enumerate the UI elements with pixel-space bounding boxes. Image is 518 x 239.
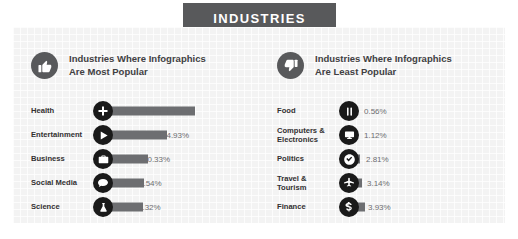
row-value: 2.81% — [366, 155, 389, 164]
bar-zone: 1.12% — [339, 125, 499, 145]
row-label: Social Media — [31, 178, 93, 187]
columns-container: Industries Where Infographics Are Most P… — [13, 27, 505, 223]
column-header-most-popular: Industries Where Infographics Are Most P… — [31, 52, 206, 79]
row-value: 9.32% — [138, 203, 161, 212]
dollar-icon — [339, 197, 359, 217]
content-panel: Industries Where Infographics Are Most P… — [13, 27, 505, 223]
thumbs-up-icon — [31, 52, 58, 79]
speech-bubble-icon — [93, 173, 113, 193]
column-heading-text: Industries Where Infographics Are Most P… — [69, 53, 206, 78]
briefcase-icon — [93, 149, 113, 169]
row-label: Food — [277, 106, 339, 115]
bar-zone: 9.54% — [93, 173, 253, 193]
bar-zone: 22% — [93, 101, 253, 121]
rows-most-popular: Health 22% Entertainment — [31, 99, 253, 219]
table-row: Social Media 9.54% — [31, 171, 253, 195]
bar-zone: 0.56% — [339, 101, 499, 121]
monitor-icon — [339, 125, 359, 145]
table-row: Business 10.33% — [31, 147, 253, 171]
bar-zone: 10.33% — [93, 149, 253, 169]
row-label: Politics — [277, 154, 339, 163]
check-circle-icon — [339, 149, 359, 169]
row-label: Health — [31, 106, 93, 115]
row-label: Computers & Electronics — [277, 126, 339, 145]
row-value: 3.93% — [368, 203, 391, 212]
column-most-popular: Industries Where Infographics Are Most P… — [13, 27, 259, 223]
rows-least-popular: Food 0.56% — [277, 99, 499, 219]
row-value: 14.93% — [162, 131, 189, 140]
table-row: Entertainment 14.93% — [31, 123, 253, 147]
flask-icon — [93, 197, 113, 217]
value-bar — [102, 107, 195, 116]
row-value: 22% — [125, 107, 141, 116]
table-row: Science 9.32% — [31, 195, 253, 219]
play-icon — [93, 125, 113, 145]
row-value: 9.54% — [139, 179, 162, 188]
table-row: Food 0.56% — [277, 99, 499, 123]
bar-zone: 14.93% — [93, 125, 253, 145]
plus-icon — [93, 101, 113, 121]
row-label: Entertainment — [31, 130, 93, 139]
column-least-popular: Industries Where Infographics Are Least … — [259, 27, 505, 223]
airplane-icon — [339, 173, 359, 193]
page-title: INDUSTRIES — [213, 11, 306, 26]
table-row: Computers & Electronics 1.12% — [277, 123, 499, 147]
column-heading-text: Industries Where Infographics Are Least … — [315, 53, 452, 78]
column-header-least-popular: Industries Where Infographics Are Least … — [277, 52, 452, 79]
row-label: Business — [31, 154, 93, 163]
infographic-root: INDUSTRIES Industries Where Infographics… — [0, 0, 518, 239]
row-label: Science — [31, 202, 93, 211]
row-value: 0.56% — [364, 107, 387, 116]
row-label: Travel & Tourism — [277, 174, 339, 193]
table-row: Politics 2.81% — [277, 147, 499, 171]
table-row: Finance 3.93% — [277, 195, 499, 219]
bar-zone: 9.32% — [93, 197, 253, 217]
thumbs-down-icon — [277, 52, 304, 79]
row-value: 1.12% — [364, 131, 387, 140]
bar-zone: 3.93% — [339, 197, 499, 217]
row-value: 10.33% — [143, 155, 170, 164]
table-row: Travel & Tourism 3.14% — [277, 171, 499, 195]
row-label: Finance — [277, 202, 339, 211]
table-row: Health 22% — [31, 99, 253, 123]
bar-zone: 2.81% — [339, 149, 499, 169]
cutlery-icon — [339, 101, 359, 121]
row-value: 3.14% — [367, 179, 390, 188]
bar-zone: 3.14% — [339, 173, 499, 193]
